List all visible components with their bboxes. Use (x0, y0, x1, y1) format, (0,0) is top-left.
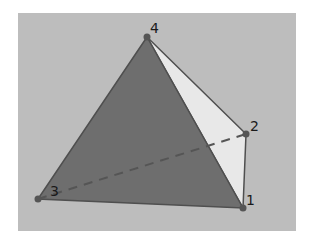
vertex-label-3: 3 (50, 183, 59, 199)
vertex-label-2: 2 (250, 118, 259, 134)
vertex-2 (243, 131, 250, 138)
vertex-label-1: 1 (246, 192, 255, 208)
tetrahedron-diagram: 1 2 3 4 (0, 0, 311, 243)
vertex-3 (35, 196, 42, 203)
vertex-label-4: 4 (150, 20, 159, 36)
